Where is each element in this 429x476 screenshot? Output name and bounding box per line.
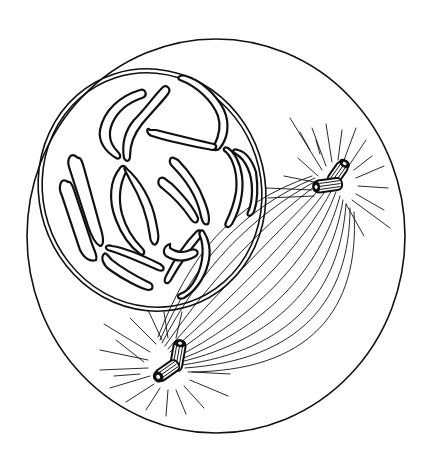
cell-diagram [0,0,429,476]
chromosome [111,166,144,255]
centriole-pair-lower [151,338,187,384]
nuclear-envelope-inner [12,44,292,336]
chromosome [147,129,216,150]
aster-lower [100,310,230,416]
chromosome [224,147,243,227]
nucleus [7,39,297,341]
